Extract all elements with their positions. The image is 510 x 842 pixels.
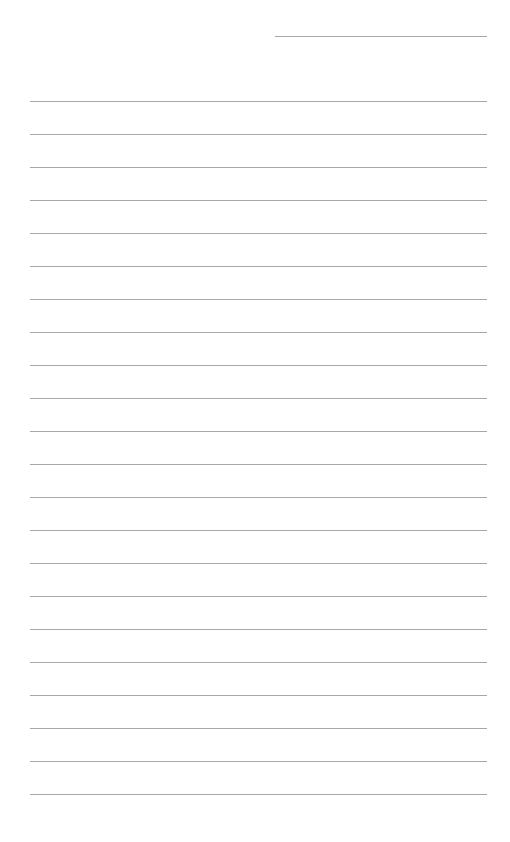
ruled-line [30,365,487,366]
ruled-line [30,761,487,762]
ruled-line [30,299,487,300]
ruled-line [30,167,487,168]
ruled-line [30,134,487,135]
lined-paper-page [0,0,510,842]
ruled-line [30,200,487,201]
ruled-line [30,266,487,267]
ruled-line [30,728,487,729]
ruled-line [30,398,487,399]
ruled-line [30,596,487,597]
ruled-line [30,101,487,102]
ruled-line [30,662,487,663]
ruled-line [30,629,487,630]
ruled-line [30,464,487,465]
ruled-line [30,233,487,234]
date-line [275,36,487,37]
ruled-line [30,530,487,531]
ruled-line [30,695,487,696]
ruled-line [30,794,487,795]
ruled-line [30,563,487,564]
ruled-line [30,497,487,498]
ruled-line [30,332,487,333]
ruled-line [30,431,487,432]
